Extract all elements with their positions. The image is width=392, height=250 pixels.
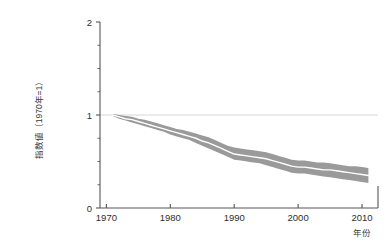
x-axis-tick-labels: 19701980199020002010 [96,212,373,223]
x-tick-label: 2000 [288,212,309,223]
x-axis-title: 年份 [353,228,371,238]
x-axis-ticks [106,204,362,208]
y-axis-title: 指数値（1970年=1） [34,77,44,160]
chart-figure: 012 19701980199020002010 指数値（1970年=1） 年份 [0,0,392,250]
x-tick-label: 1980 [160,212,181,223]
y-tick-label: 2 [87,17,92,28]
confidence-band [113,114,369,183]
y-tick-label: 1 [87,110,92,121]
y-tick-label: 0 [87,203,92,214]
y-axis-major-ticks [96,22,100,208]
chart-canvas: 012 19701980199020002010 指数値（1970年=1） 年份 [0,0,392,250]
x-tick-label: 2010 [351,212,372,223]
y-axis-tick-labels: 012 [87,17,92,214]
data-band-group [113,114,369,183]
x-tick-label: 1990 [224,212,245,223]
x-tick-label: 1970 [96,212,117,223]
